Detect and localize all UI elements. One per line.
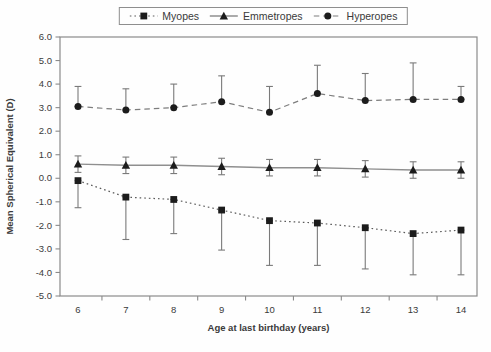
- marker-myopes: [122, 194, 129, 201]
- y-tick-label: -2.0: [36, 220, 52, 231]
- y-tick-label: 6.0: [39, 31, 52, 42]
- marker-myopes: [362, 224, 369, 231]
- marker-hyperopes: [75, 103, 82, 110]
- legend-item-emmetropes: Emmetropes: [209, 10, 303, 22]
- y-tick-label: 1.0: [39, 149, 52, 160]
- y-tick-label: 0.0: [39, 172, 52, 183]
- chart-figure: 6.05.04.03.02.01.00.0-1.0-2.0-3.0-4.0-5.…: [0, 0, 491, 352]
- y-tick-label: 3.0: [39, 102, 52, 113]
- legend-square-glyph: [140, 13, 147, 20]
- marker-hyperopes: [458, 96, 465, 103]
- x-tick-label: 8: [171, 304, 176, 315]
- x-tick-label: 6: [75, 304, 80, 315]
- y-tick-label: -5.0: [36, 290, 52, 301]
- legend: Myopes Emmetropes Hyperopes: [118, 7, 407, 25]
- marker-hyperopes: [314, 90, 321, 97]
- x-tick-label: 9: [219, 304, 224, 315]
- x-tick-label: 13: [408, 304, 419, 315]
- x-tick-label: 11: [312, 304, 322, 315]
- y-tick-label: -3.0: [36, 243, 52, 254]
- y-axis-title: Mean Spherical Equivalent (D): [4, 69, 15, 265]
- chart-canvas: 6.05.04.03.02.01.00.0-1.0-2.0-3.0-4.0-5.…: [0, 0, 491, 352]
- y-tick-label: 2.0: [39, 125, 52, 136]
- x-axis-title: Age at last birthday (years): [60, 322, 477, 333]
- legend-label: Myopes: [162, 10, 199, 22]
- marker-myopes: [458, 227, 465, 234]
- y-tick-label: 5.0: [39, 55, 52, 66]
- triangle-marker-icon: [209, 11, 239, 21]
- marker-hyperopes: [362, 97, 369, 104]
- marker-myopes: [410, 230, 417, 237]
- legend-item-myopes: Myopes: [128, 10, 199, 22]
- y-tick-label: -1.0: [36, 196, 52, 207]
- marker-hyperopes: [170, 104, 177, 111]
- legend-item-hyperopes: Hyperopes: [313, 10, 398, 22]
- legend-circle-glyph: [324, 13, 331, 20]
- marker-hyperopes: [266, 109, 273, 116]
- x-tick-label: 14: [456, 304, 467, 315]
- marker-myopes: [75, 177, 82, 184]
- legend-label: Hyperopes: [347, 10, 398, 22]
- marker-hyperopes: [218, 98, 225, 105]
- circle-marker-icon: [313, 11, 343, 21]
- square-marker-icon: [128, 11, 158, 21]
- marker-myopes: [170, 196, 177, 203]
- legend-label: Emmetropes: [243, 10, 303, 22]
- marker-myopes: [266, 217, 273, 224]
- x-tick-label: 10: [264, 304, 275, 315]
- marker-hyperopes: [122, 106, 129, 113]
- x-tick-label: 7: [123, 304, 128, 315]
- marker-myopes: [314, 220, 321, 227]
- marker-hyperopes: [410, 96, 417, 103]
- x-tick-label: 12: [360, 304, 371, 315]
- y-tick-label: 4.0: [39, 78, 52, 89]
- marker-myopes: [218, 207, 225, 214]
- y-tick-label: -4.0: [36, 267, 52, 278]
